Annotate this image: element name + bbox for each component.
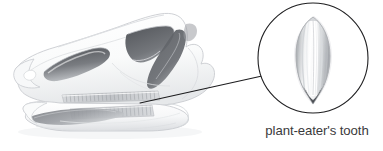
callout-label: plant-eater's tooth [258,123,376,138]
callout-circle-group [258,3,368,113]
illustration-figure: plant-eater's tooth [0,0,383,151]
